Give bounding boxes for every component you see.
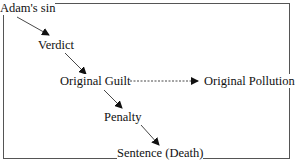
node-penalty: Penalty bbox=[104, 110, 142, 124]
node-verdict: Verdict bbox=[38, 38, 74, 52]
node-original-pollution: Original Pollution bbox=[204, 74, 295, 88]
node-sentence-death: Sentence (Death) bbox=[117, 146, 203, 160]
edge-verdict-to-original-guilt bbox=[65, 53, 86, 74]
edge-adams-sin-to-verdict bbox=[17, 17, 49, 35]
edge-guilt-to-penalty bbox=[104, 90, 122, 108]
edge-penalty-to-sentence bbox=[141, 125, 159, 145]
node-adams-sin: Adam's sin bbox=[0, 1, 55, 15]
node-original-guilt: Original Guilt bbox=[60, 74, 130, 88]
